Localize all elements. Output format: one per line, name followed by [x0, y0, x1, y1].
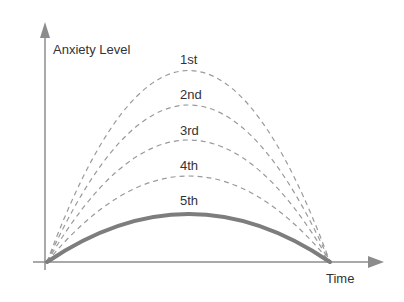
curve-label-1st: 1st	[180, 52, 198, 67]
curve-label-4th: 4th	[180, 158, 198, 173]
x-axis-label: Time	[326, 271, 354, 286]
y-axis-label: Anxiety Level	[53, 42, 130, 57]
curve-label-3rd: 3rd	[180, 123, 199, 138]
y-axis-arrow-icon	[40, 22, 50, 38]
anxiety-diagram: Anxiety Level Time 1st 2nd 3rd 4th 5th	[0, 0, 404, 302]
x-axis-arrow-icon	[368, 256, 384, 268]
curve-5th	[47, 214, 330, 262]
curve-label-2nd: 2nd	[180, 87, 202, 102]
curve-label-5th: 5th	[180, 193, 198, 208]
curve-4th	[47, 176, 330, 262]
